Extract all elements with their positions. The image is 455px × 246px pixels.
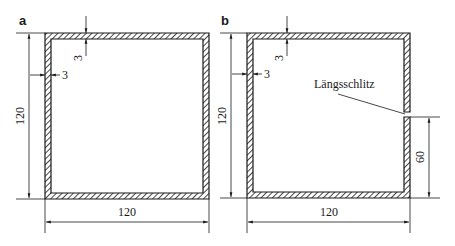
panel-a: a 120 120 3 3 [13, 13, 209, 233]
panel-b: b 120 120 3 3 Längsschlitz 60 [215, 13, 440, 233]
height-dimension-a: 120 [13, 107, 27, 125]
width-dimension-b: 120 [320, 205, 338, 219]
square-tube-section-a [45, 33, 209, 199]
slit-height-dimension: 60 [413, 151, 427, 163]
wall-top-dimension-a: 3 [71, 55, 85, 61]
slit-leader-line [338, 94, 405, 114]
figure-canvas: a 120 120 3 3 b 1 [0, 0, 455, 246]
height-dimension-b: 120 [215, 107, 229, 125]
wall-left-dimension-a: 3 [62, 68, 68, 82]
width-dimension-a: 120 [118, 205, 136, 219]
wall-top-dimension-b: 3 [272, 55, 286, 61]
panel-label-a: a [19, 13, 27, 28]
wall-left-dimension-b: 3 [264, 67, 270, 81]
slit-label: Längsschlitz [314, 77, 375, 91]
panel-label-b: b [221, 13, 229, 28]
